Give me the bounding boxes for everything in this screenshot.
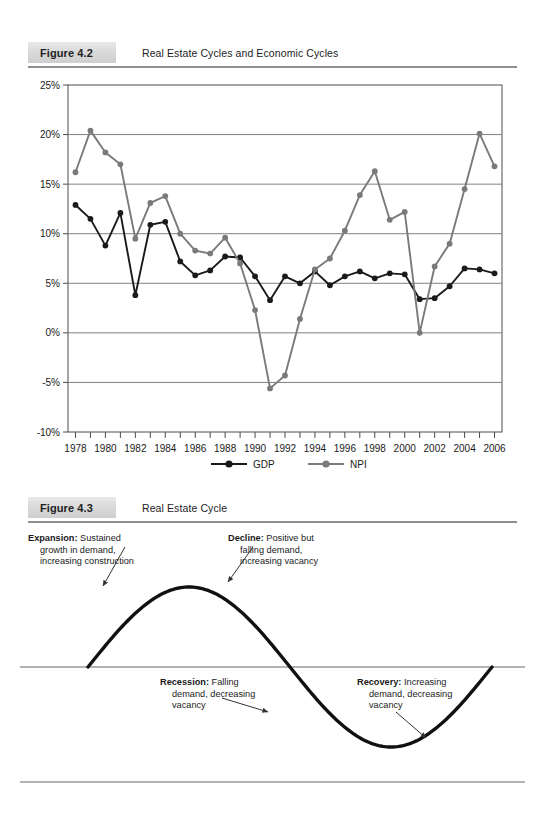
x-tick-label: 1990 (244, 443, 267, 454)
annotation-recovery-line3: vacancy (357, 700, 522, 712)
annotation-recession-line3: vacancy (160, 700, 325, 712)
data-point-gdp (327, 282, 333, 288)
x-tick-label: 1996 (334, 443, 357, 454)
data-point-gdp (88, 216, 94, 222)
data-point-npi (252, 307, 258, 313)
y-tick-label: 15% (40, 179, 60, 190)
data-point-npi (237, 261, 243, 267)
annotation-recession-line1: Falling (209, 677, 239, 687)
data-point-gdp (177, 259, 183, 265)
annotation-decline-line2: falling demand, (228, 545, 388, 557)
data-point-gdp (417, 296, 423, 302)
leader-recovery (396, 712, 426, 738)
data-point-gdp (387, 270, 393, 276)
data-point-npi (88, 128, 94, 134)
data-point-npi (103, 150, 109, 156)
data-point-npi (417, 330, 423, 336)
y-tick-label: 20% (40, 129, 60, 140)
data-point-gdp (252, 273, 258, 279)
data-point-gdp (372, 275, 378, 281)
data-point-npi (162, 193, 168, 199)
annotation-decline-line3: increasing vacancy (228, 556, 388, 568)
data-point-gdp (282, 273, 288, 279)
data-point-npi (207, 251, 213, 257)
data-point-npi (342, 228, 348, 234)
data-point-gdp (477, 267, 483, 273)
plot-frame (68, 85, 502, 432)
data-point-gdp (117, 210, 123, 216)
data-point-gdp (147, 222, 153, 228)
data-point-gdp (357, 268, 363, 274)
x-tick-label: 1988 (214, 443, 237, 454)
data-point-gdp (447, 283, 453, 289)
x-tick-label: 1994 (304, 443, 327, 454)
data-point-npi (402, 209, 408, 215)
annotation-recovery-line2: demand, decreasing (357, 689, 522, 701)
data-point-npi (222, 235, 228, 241)
data-point-npi (327, 256, 333, 262)
figure-4-3-tag: Figure 4.3 (28, 497, 116, 518)
data-point-npi (267, 385, 273, 391)
annotation-decline: Decline: Positive but falling demand, in… (228, 533, 388, 568)
data-point-npi (297, 316, 303, 322)
data-point-gdp (297, 280, 303, 286)
data-point-gdp (132, 292, 138, 298)
data-point-npi (312, 267, 318, 273)
chart-svg: 25%20%15%10%5%0%-5%-10%19781980198219841… (0, 0, 545, 480)
y-tick-label: 5% (46, 278, 61, 289)
line-chart-figure-4-2: 25%20%15%10%5%0%-5%-10%19781980198219841… (0, 0, 545, 480)
data-point-npi (73, 169, 79, 175)
x-tick-label: 1982 (124, 443, 147, 454)
x-tick-label: 1978 (64, 443, 87, 454)
x-tick-label: 1992 (274, 443, 297, 454)
data-point-gdp (432, 295, 438, 301)
data-point-gdp (222, 254, 228, 260)
x-tick-label: 2002 (424, 443, 447, 454)
legend-label-gdp: GDP (253, 459, 275, 470)
data-point-npi (372, 168, 378, 174)
x-tick-label: 1986 (184, 443, 207, 454)
legend-label-npi: NPI (350, 459, 367, 470)
annotation-recession: Recession: Falling demand, decreasing va… (160, 677, 325, 712)
x-tick-label: 2004 (453, 443, 476, 454)
x-tick-label: 1980 (94, 443, 117, 454)
data-point-gdp (162, 219, 168, 225)
annotation-recovery: Recovery: Increasing demand, decreasing … (357, 677, 522, 712)
annotation-expansion-line2: growth in demand, (28, 545, 188, 557)
annotation-recovery-line1: Increasing (401, 677, 446, 687)
annotation-decline-line1: Positive but (264, 533, 314, 543)
figure-4-3-header: Figure 4.3 Real Estate Cycle (28, 497, 517, 523)
x-tick-label: 2006 (483, 443, 506, 454)
y-tick-label: -5% (42, 377, 60, 388)
data-point-npi (462, 186, 468, 192)
data-point-gdp (342, 273, 348, 279)
data-point-gdp (207, 268, 213, 274)
data-point-npi (477, 131, 483, 137)
data-point-npi (387, 217, 393, 223)
data-point-gdp (73, 202, 79, 208)
x-tick-label: 1984 (154, 443, 177, 454)
y-tick-label: 10% (40, 228, 60, 239)
annotation-recovery-title: Recovery: (357, 677, 401, 687)
figure-4-3-title: Real Estate Cycle (116, 502, 227, 514)
annotation-expansion-line3: increasing construction (28, 556, 188, 568)
data-point-gdp (462, 266, 468, 272)
y-tick-label: 0% (46, 327, 61, 338)
legend-marker-npi (322, 460, 329, 467)
annotation-decline-title: Decline: (228, 533, 264, 543)
y-tick-label: 25% (40, 80, 60, 91)
data-point-npi (117, 161, 123, 167)
data-point-npi (147, 200, 153, 206)
data-point-npi (357, 192, 363, 198)
data-point-npi (177, 231, 183, 237)
x-tick-label: 1998 (364, 443, 387, 454)
data-point-npi (192, 248, 198, 254)
legend-marker-gdp (225, 460, 232, 467)
data-point-gdp (192, 272, 198, 278)
data-point-npi (282, 373, 288, 379)
data-point-gdp (267, 297, 273, 303)
annotation-expansion-line1: Sustained (78, 533, 121, 543)
annotation-expansion: Expansion: Sustained growth in demand, i… (28, 533, 188, 568)
data-point-gdp (492, 270, 498, 276)
annotation-recession-title: Recession: (160, 677, 209, 687)
